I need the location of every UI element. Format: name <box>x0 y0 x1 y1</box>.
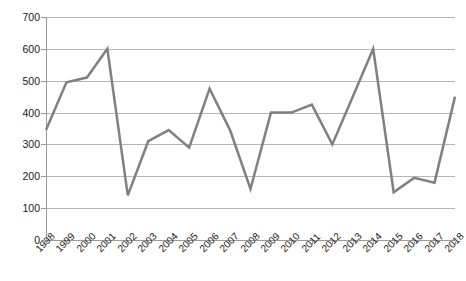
x-axis-tick-mark <box>128 241 129 245</box>
x-axis-tick-mark <box>394 241 395 245</box>
x-axis-tick-mark <box>169 241 170 245</box>
x-axis-tick-mark <box>414 241 415 245</box>
y-axis-tick-mark <box>41 17 46 18</box>
y-axis-tick-mark <box>41 113 46 114</box>
x-axis-tick-mark <box>87 241 88 245</box>
y-axis-tick-mark <box>41 49 46 50</box>
x-axis-tick-mark <box>455 241 456 245</box>
y-axis-tick-mark <box>41 208 46 209</box>
x-axis-tick-mark <box>373 241 374 245</box>
x-axis-tick-mark <box>312 241 313 245</box>
y-axis-tick-mark <box>41 81 46 82</box>
x-axis-tick-mark <box>230 241 231 245</box>
x-axis-tick-mark <box>107 241 108 245</box>
line-chart: 0100200300400500600700 19981999200020012… <box>0 0 466 281</box>
x-axis-tick-mark <box>435 241 436 245</box>
y-axis-tick-mark <box>41 144 46 145</box>
x-axis-tick-mark <box>46 241 47 245</box>
x-axis-tick-mark <box>251 241 252 245</box>
x-axis-tick-mark <box>353 241 354 245</box>
x-axis-tick-mark <box>66 241 67 245</box>
x-axis-tick-mark <box>271 241 272 245</box>
x-axis-tick-mark <box>148 241 149 245</box>
series-line-polyline <box>46 49 455 196</box>
x-axis-tick-mark <box>189 241 190 245</box>
x-axis-tick-mark <box>210 241 211 245</box>
x-axis-tick-mark <box>291 241 292 245</box>
x-axis-tick-mark <box>332 241 333 245</box>
data-series-group <box>0 0 466 281</box>
y-axis-tick-mark <box>41 176 46 177</box>
